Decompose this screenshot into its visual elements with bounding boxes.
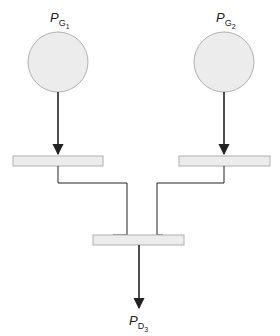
label-pg2-sub: G bbox=[225, 18, 232, 28]
label-pg1-subsub: 1 bbox=[66, 23, 70, 30]
bus-2 bbox=[179, 156, 270, 166]
line-bus2-to-bus3 bbox=[157, 166, 224, 235]
label-pg2: PG2 bbox=[216, 10, 236, 30]
line-bus1-to-bus3 bbox=[58, 166, 127, 235]
label-pd3-subsub: 3 bbox=[144, 326, 148, 333]
label-pg2-subsub: 2 bbox=[232, 23, 236, 30]
label-pd3-main: P bbox=[129, 313, 138, 328]
generator-g2-node bbox=[194, 32, 254, 92]
label-pg1: PG1 bbox=[50, 10, 70, 30]
label-pg2-main: P bbox=[216, 10, 225, 25]
generator-g1-node bbox=[28, 32, 88, 92]
bus-1 bbox=[13, 156, 103, 166]
label-pd3: PD3 bbox=[129, 313, 148, 333]
bus-3 bbox=[93, 235, 184, 245]
diagram-canvas bbox=[0, 0, 280, 336]
label-pg1-sub: G bbox=[59, 18, 66, 28]
label-pg1-main: P bbox=[50, 10, 59, 25]
